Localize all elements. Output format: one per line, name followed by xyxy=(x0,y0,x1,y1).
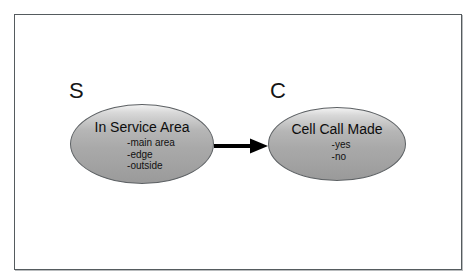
node-option: -no xyxy=(332,151,351,163)
node-options: -yes -no xyxy=(332,139,351,162)
edge-arrow-s-to-c xyxy=(212,136,270,156)
node-option: -edge xyxy=(127,149,175,161)
node-tag-s: S xyxy=(69,80,84,102)
node-options: -main area -edge -outside xyxy=(127,137,175,172)
node-option: -yes xyxy=(332,139,351,151)
node-title: In Service Area xyxy=(95,120,190,135)
node-cell-call-made[interactable]: Cell Call Made -yes -no xyxy=(268,107,406,181)
node-option: -main area xyxy=(127,137,175,149)
node-title: Cell Call Made xyxy=(291,122,382,137)
node-option: -outside xyxy=(127,160,175,172)
diagram-canvas: S C In Service Area -main area -edge -ou… xyxy=(0,0,476,280)
node-tag-c: C xyxy=(270,80,286,102)
node-in-service-area[interactable]: In Service Area -main area -edge -outsid… xyxy=(70,104,214,184)
